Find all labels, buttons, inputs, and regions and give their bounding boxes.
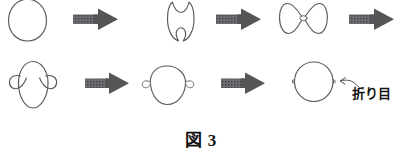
shape-pinched-circle [168,2,195,41]
figure-diagram: 折り目 図3 [0,0,402,159]
transition-arrow-1 [73,9,118,31]
caption-number: 3 [208,131,218,150]
shape-round-small-loops [142,66,194,105]
transition-arrow-4 [85,73,129,95]
fold-mark-left [293,79,294,83]
caption-label: 図 [185,131,203,150]
transition-arrow-2 [216,9,261,31]
transition-arrow-3 [349,9,394,31]
shape-final-circle-with-folds [293,62,335,102]
fold-mark-right [334,79,335,83]
shape-circle-plain [9,0,47,41]
fold-line-annotation: 折り目 [352,86,391,101]
transition-arrow-5 [221,73,265,95]
shape-oval-two-side-loops [9,62,56,109]
shape-figure-eight [280,4,328,34]
figure-caption: 図3 [0,131,402,151]
